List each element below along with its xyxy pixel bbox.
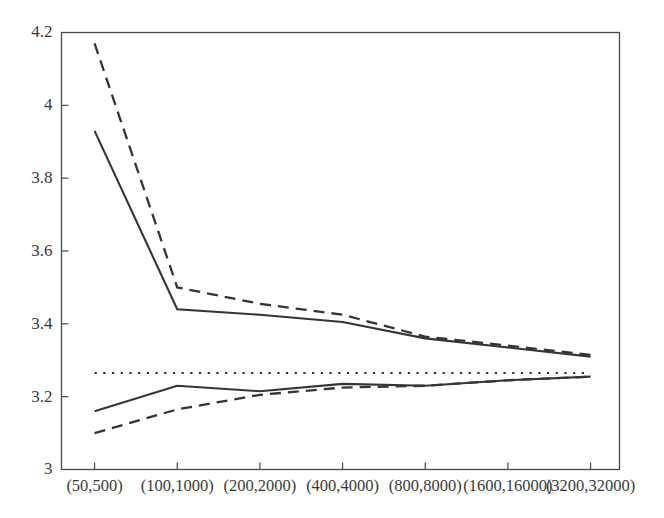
chart-svg: 33.23.43.63.844.2 (50,500)(100,1000)(200… (0, 0, 664, 518)
y-tick-label: 3.2 (31, 387, 52, 406)
series-upper-solid (95, 131, 591, 357)
series-layer (95, 43, 591, 433)
series-lower-dashed (95, 377, 591, 433)
y-tick-label: 3.4 (31, 314, 53, 333)
y-tick-label: 3 (44, 459, 53, 478)
series-upper-dashed (95, 43, 591, 354)
x-tick-label: (200,2000) (223, 476, 296, 495)
y-tick-label: 4 (44, 95, 53, 114)
x-axis-ticks (95, 463, 591, 470)
chart-page: 33.23.43.63.844.2 (50,500)(100,1000)(200… (0, 0, 664, 518)
axis-frame (62, 33, 620, 470)
x-tick-label: (1600,16000) (463, 476, 552, 495)
line-chart: 33.23.43.63.844.2 (50,500)(100,1000)(200… (0, 0, 664, 518)
x-tick-label: (400,4000) (306, 476, 379, 495)
series-lower-solid (95, 377, 591, 412)
y-tick-label: 4.2 (31, 22, 52, 41)
y-axis-ticks (62, 105, 69, 396)
y-tick-label: 3.8 (31, 168, 52, 187)
x-tick-label: (800,8000) (389, 476, 462, 495)
x-tick-label: (3200,32000) (546, 476, 635, 495)
x-axis-tick-labels: (50,500)(100,1000)(200,2000)(400,4000)(8… (66, 476, 635, 495)
y-axis-tick-labels: 33.23.43.63.844.2 (31, 22, 53, 478)
x-tick-label: (50,500) (66, 476, 122, 495)
y-tick-label: 3.6 (31, 241, 52, 260)
x-tick-label: (100,1000) (141, 476, 214, 495)
